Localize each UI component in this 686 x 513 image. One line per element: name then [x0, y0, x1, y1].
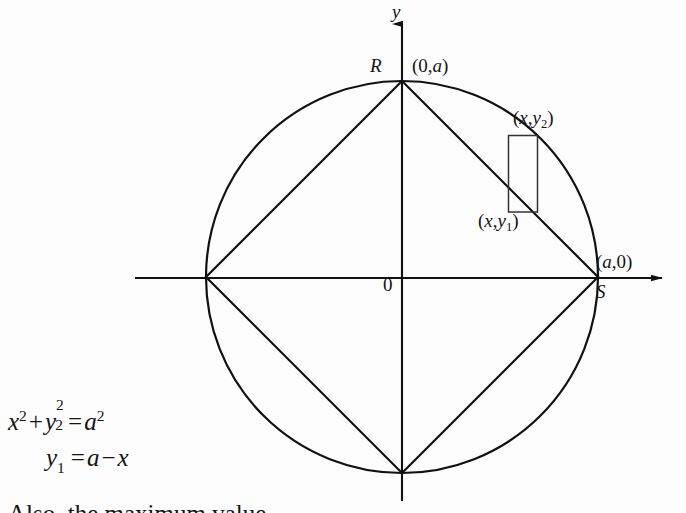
- origin-label: 0: [383, 275, 393, 294]
- coordinate-label-lower: (x,y1): [478, 211, 519, 233]
- equation-circle: x2+y22=a2: [8, 404, 129, 440]
- vertex-label-s: S: [596, 282, 606, 301]
- coordinate-label-top: (0,a): [412, 56, 448, 75]
- equation-line: y1=a−x: [8, 440, 129, 479]
- cut-off-text-line: Also, the maximum value ...: [8, 500, 368, 513]
- y-axis-label: y: [392, 2, 400, 21]
- coordinate-label-upper: (x,y2): [513, 108, 554, 130]
- figure-page: y 0 R (0,a) S (a,0) (x,y2) (x,y1) x2+y22…: [0, 0, 686, 513]
- equation-block: x2+y22=a2 y1=a−x: [8, 404, 129, 478]
- vertex-label-r: R: [370, 56, 382, 75]
- coordinate-label-right: (a,0): [596, 252, 632, 271]
